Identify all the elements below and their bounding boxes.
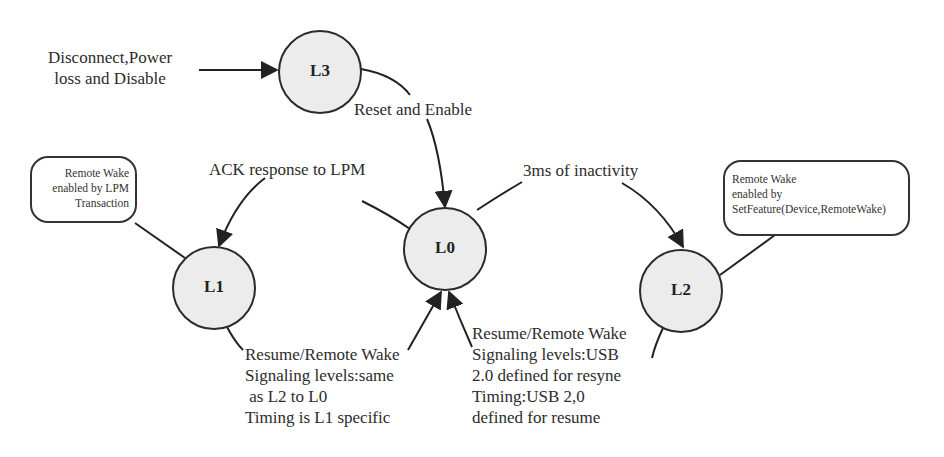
callout-l2-remote-wake: Remote Wake enabled by SetFeature(Device…: [723, 160, 910, 236]
transition-label-l0-l2: 3ms of inactivity: [523, 160, 638, 181]
transition-label-l0-l1: ACK response to LPM: [209, 159, 365, 180]
connector-l2-note: [720, 235, 775, 275]
transition-label-l1-l0: Resume/Remote Wake Signaling levels:same…: [245, 344, 400, 428]
arrow-l3-to-l0-top: [361, 69, 410, 95]
arrow-l0-to-l2: [622, 183, 683, 247]
arrow-l2-to-l0: [449, 292, 472, 347]
transition-label-l2-l0: Resume/Remote Wake Signaling levels:USB …: [472, 323, 627, 428]
transition-label-entry-l3: Disconnect,Power loss and Disable: [48, 47, 172, 89]
arrow-l0-to-l1-start: [362, 201, 410, 229]
arrow-l0-to-l2-start: [477, 182, 522, 210]
state-label-l0: L0: [405, 238, 485, 258]
arrow-l1-to-l0: [408, 292, 441, 350]
state-label-l2: L2: [641, 280, 721, 300]
connector-l1-note: [135, 223, 185, 258]
transition-label-l3-l0: Reset and Enable: [354, 99, 472, 120]
arrow-l0-to-l1: [219, 178, 265, 246]
callout-l1-remote-wake: Remote Wake enabled by LPM Transaction: [30, 156, 137, 223]
arrow-l2-to-l0-start: [652, 328, 663, 358]
arrow-l1-to-l0-start: [227, 327, 243, 350]
arrow-l3-to-l0: [427, 119, 445, 207]
state-label-l1: L1: [174, 277, 254, 297]
state-label-l3: L3: [280, 61, 360, 81]
